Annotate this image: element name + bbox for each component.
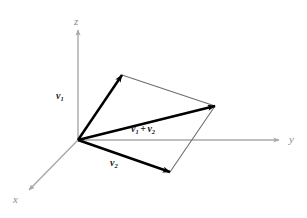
vector-label-v1: v1 <box>56 91 64 101</box>
vector-addition-figure: z y x v1 v2 v1+v2 <box>0 0 307 218</box>
figure-canvas <box>0 0 307 218</box>
axis-label-z: z <box>74 16 78 27</box>
parallelogram-edge-v1-to-sum <box>122 75 215 106</box>
vector-label-v1-plus-v2: v1+v2 <box>131 124 155 134</box>
vector-v2 <box>78 140 170 172</box>
axis-label-y: y <box>289 134 294 145</box>
vector-label-v2: v2 <box>110 158 118 168</box>
axis-label-x: x <box>13 194 18 205</box>
axis-x <box>29 140 78 190</box>
